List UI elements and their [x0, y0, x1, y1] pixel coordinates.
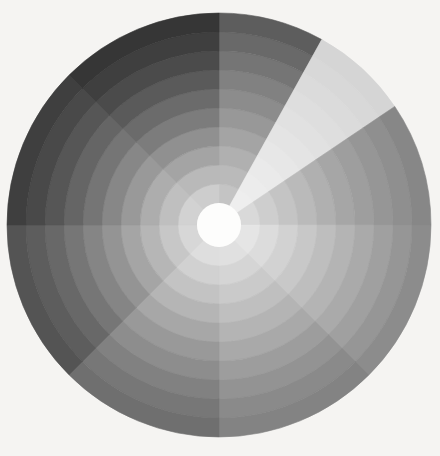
polar-heatmap-figure — [0, 0, 440, 456]
polar-chart-canvas — [0, 0, 440, 456]
center-hole — [197, 203, 241, 247]
